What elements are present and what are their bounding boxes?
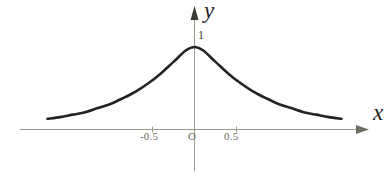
y-axis-label: y (204, 0, 214, 24)
plot-canvas (0, 0, 392, 186)
x-axis-label: x (373, 100, 383, 126)
x-tick-label-pos-half: 0.5 (224, 130, 238, 142)
y-tick-label-one: 1 (198, 28, 204, 43)
origin-label: O (188, 130, 196, 142)
x-axis-arrowhead (356, 125, 369, 134)
y-axis-arrowhead (191, 6, 199, 20)
x-tick-label-neg-half: -0.5 (140, 130, 158, 142)
bell-curve-figure: -0.5 O 0.5 1 y x (0, 0, 392, 186)
